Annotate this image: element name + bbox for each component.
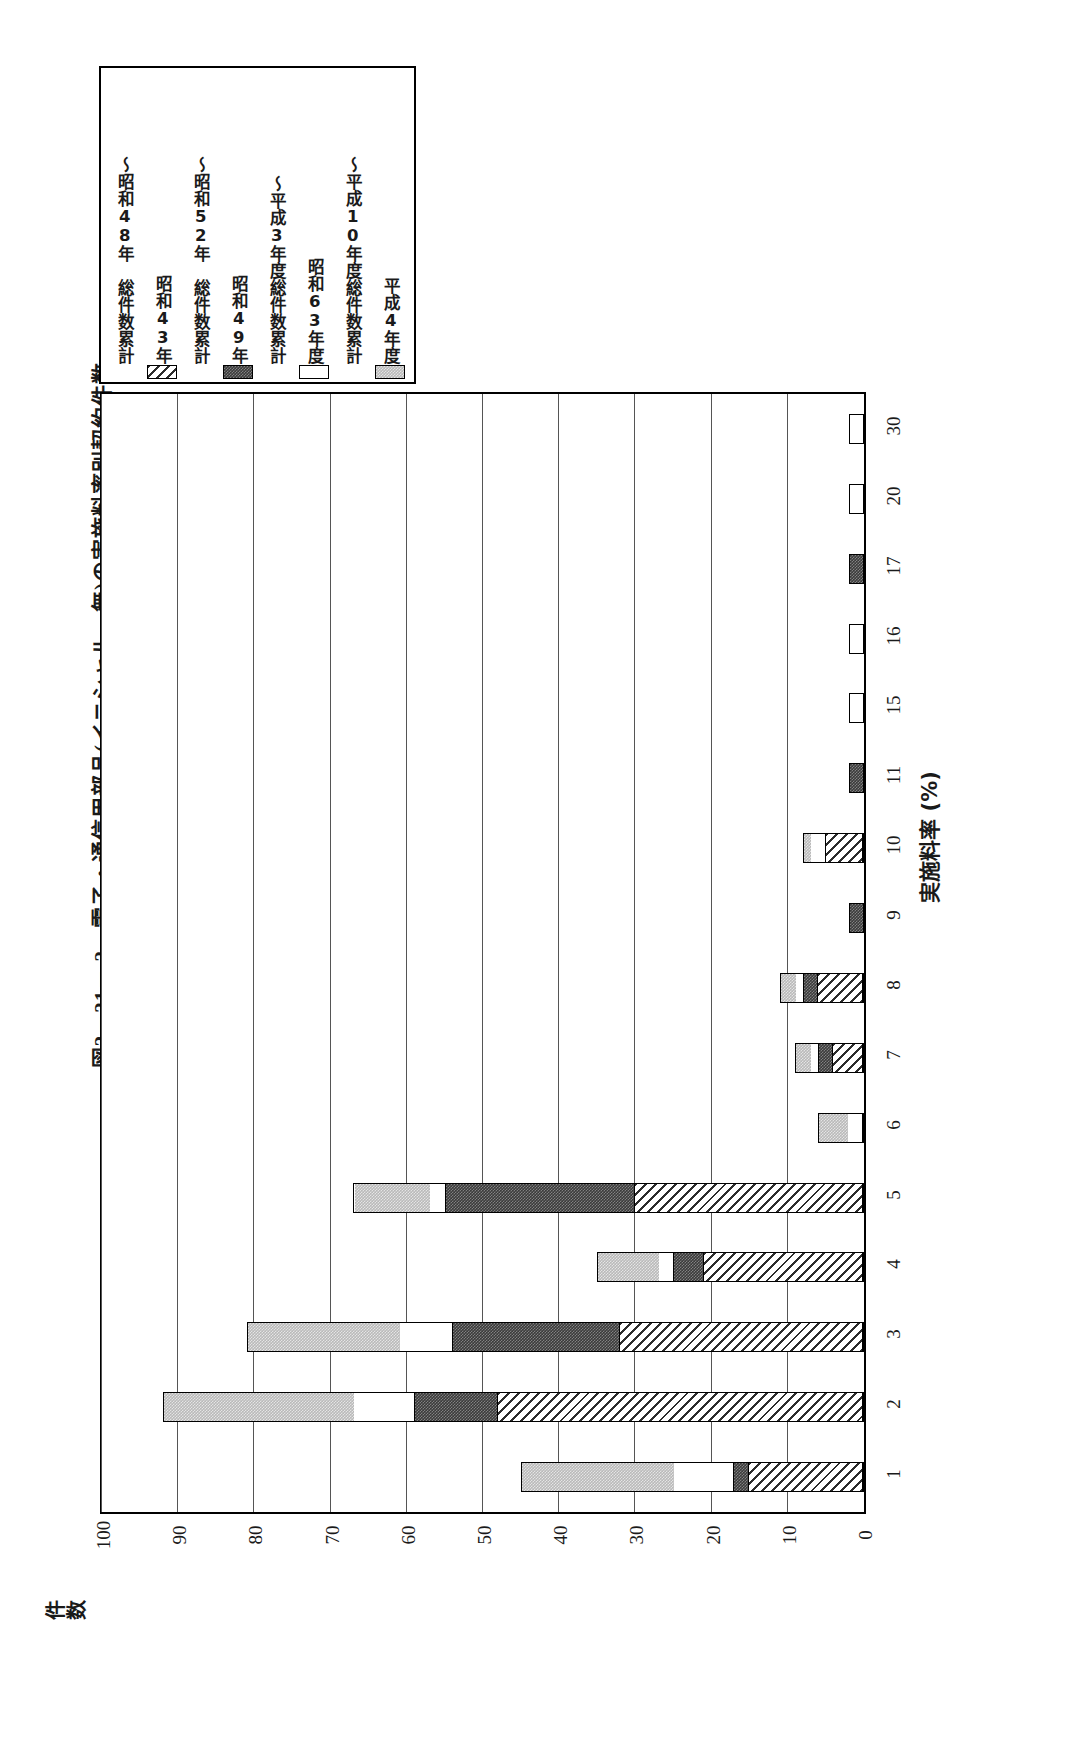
- bar-segment: [248, 1323, 400, 1351]
- legend-item: ～昭和48年 総件数累計: [105, 68, 143, 381]
- bar-segment: [734, 1463, 749, 1491]
- bar-segment: [635, 1184, 863, 1212]
- bar-segment: [674, 1253, 704, 1281]
- category-tick-label: 16: [883, 608, 905, 664]
- bar-segment: [818, 974, 863, 1002]
- legend-label: 昭和49年: [230, 275, 247, 364]
- bar-series-group: [102, 394, 864, 1512]
- category-tick-label: 20: [883, 468, 905, 524]
- category-tick-label: 5: [883, 1167, 905, 1223]
- bar-segment: [826, 834, 863, 862]
- stacked-bar: [247, 1322, 864, 1352]
- stacked-bar: [849, 624, 864, 654]
- stacked-bar: [818, 1113, 864, 1143]
- value-tick-label: 0: [855, 1510, 877, 1560]
- category-tick-label: 3: [883, 1306, 905, 1362]
- stacked-bar: [353, 1183, 864, 1213]
- legend-label: 昭和43年: [154, 275, 171, 364]
- legend-item: 昭和49年: [219, 68, 257, 381]
- legend-item: 昭和63年度: [295, 68, 333, 381]
- category-tick-label: 6: [883, 1097, 905, 1153]
- bar-segment: [164, 1393, 354, 1421]
- value-tick-label: 50: [474, 1510, 496, 1560]
- value-tick-label: 70: [322, 1510, 344, 1560]
- stacked-bar: [849, 903, 864, 933]
- value-tick-label: 100: [93, 1510, 115, 1560]
- bar-segment: [415, 1393, 499, 1421]
- legend-item: 昭和43年: [143, 68, 181, 381]
- value-axis: 1009080706050403020100: [100, 1516, 866, 1576]
- value-tick-label: 10: [779, 1510, 801, 1560]
- value-axis-title: 件数: [46, 1596, 88, 1620]
- legend-label: ～平成3年度総件数累計: [268, 175, 285, 364]
- bar-segment: [354, 1393, 415, 1421]
- category-tick-label: 1: [883, 1446, 905, 1502]
- bar-segment: [400, 1323, 453, 1351]
- stacked-bar: [849, 484, 864, 514]
- category-axis-title-text: 実施料率 (%): [913, 762, 943, 912]
- bar-segment: [749, 1463, 863, 1491]
- value-tick-label: 20: [703, 1510, 725, 1560]
- stacked-bar: [849, 414, 864, 444]
- legend-swatch: [375, 365, 405, 379]
- legend-label: ～昭和52年 総件数累計: [192, 156, 209, 364]
- bar-segment: [804, 974, 819, 1002]
- bar-segment: [850, 625, 863, 653]
- value-tick-label: 90: [169, 1510, 191, 1560]
- bar-segment: [498, 1393, 863, 1421]
- category-tick-label: 15: [883, 677, 905, 733]
- category-tick-label: 8: [883, 957, 905, 1013]
- value-tick-label: 80: [245, 1510, 267, 1560]
- chart-legend: 平成4年度～平成10年度総件数累計昭和63年度～平成3年度総件数累計昭和49年～…: [99, 66, 416, 384]
- legend-swatch: [147, 365, 177, 379]
- category-tick-label: 10: [883, 817, 905, 873]
- category-tick-label: 4: [883, 1236, 905, 1292]
- value-tick-label: 40: [550, 1510, 572, 1560]
- bar-segment: [598, 1253, 659, 1281]
- bar-segment: [446, 1184, 636, 1212]
- stacked-bar: [597, 1252, 864, 1282]
- bar-segment: [848, 1114, 863, 1142]
- stacked-bar: [803, 833, 864, 863]
- bar-segment: [355, 1184, 431, 1212]
- value-tick-label: 30: [626, 1510, 648, 1560]
- bar-segment: [620, 1323, 863, 1351]
- bar-segment: [850, 694, 863, 722]
- bar-segment: [819, 1114, 848, 1142]
- legend-items: 平成4年度～平成10年度総件数累計昭和63年度～平成3年度総件数累計昭和49年～…: [101, 68, 415, 381]
- stacked-bar: [521, 1462, 864, 1492]
- legend-swatch: [299, 365, 329, 379]
- stacked-bar: [849, 554, 864, 584]
- legend-label: ～昭和48年 総件数累計: [116, 156, 133, 364]
- legend-label: 昭和63年度: [306, 258, 323, 364]
- bar-segment: [430, 1184, 445, 1212]
- bar-segment: [850, 555, 863, 583]
- category-tick-label: 30: [883, 398, 905, 454]
- bar-segment: [659, 1253, 674, 1281]
- bar-segment: [781, 974, 796, 1002]
- legend-swatch-empty: [109, 365, 139, 379]
- legend-item: ～昭和52年 総件数累計: [181, 68, 219, 381]
- category-tick-label: 2: [883, 1376, 905, 1432]
- bar-segment: [850, 764, 863, 792]
- value-tick-label: 60: [398, 1510, 420, 1560]
- stacked-bar: [163, 1392, 864, 1422]
- bar-segment: [453, 1323, 620, 1351]
- legend-label: 平成4年度: [382, 277, 399, 364]
- category-tick-label: 7: [883, 1027, 905, 1083]
- bar-segment: [811, 1044, 818, 1072]
- legend-swatch: [223, 365, 253, 379]
- bar-segment: [674, 1463, 735, 1491]
- bar-segment: [796, 974, 803, 1002]
- legend-swatch-empty: [261, 365, 291, 379]
- category-tick-label: 17: [883, 538, 905, 594]
- bar-segment: [850, 485, 863, 513]
- category-axis-title: 実施料率 (%): [905, 392, 951, 1514]
- legend-item: ～平成10年度総件数累計: [333, 68, 371, 381]
- bar-segment: [804, 834, 811, 862]
- bar-segment: [704, 1253, 863, 1281]
- bar-segment: [819, 1044, 834, 1072]
- stacked-bar: [849, 763, 864, 793]
- category-tick-label: 9: [883, 887, 905, 943]
- stacked-bar: [849, 693, 864, 723]
